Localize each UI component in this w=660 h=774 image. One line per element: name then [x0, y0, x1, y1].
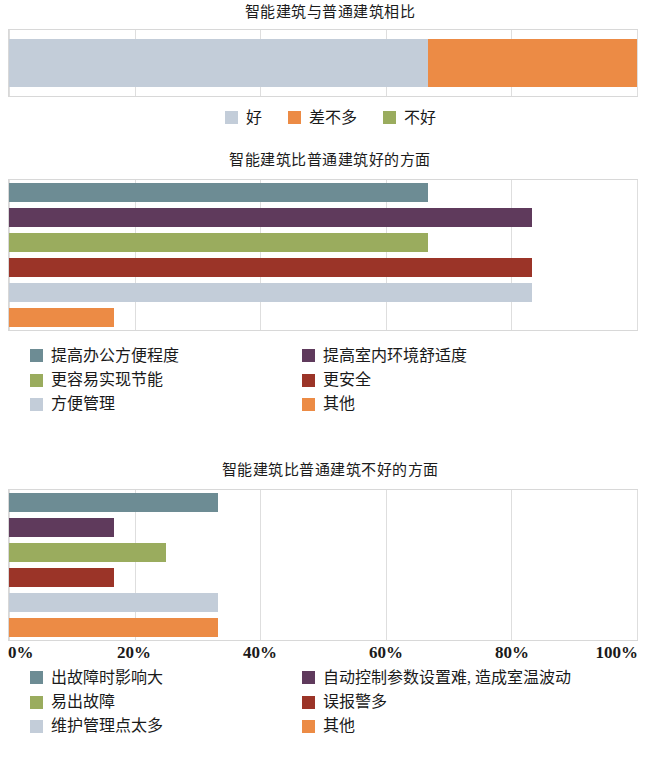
legend-label: 自动控制参数设置难, 造成室温波动 — [323, 669, 571, 687]
legend-swatch-icon — [30, 398, 43, 411]
legend-swatch-icon — [30, 696, 43, 709]
bar-row — [9, 565, 637, 590]
bar-row — [9, 230, 637, 255]
x-axis-tick-20%: 20% — [117, 643, 151, 663]
chart-3-title: 智能建筑比普通建筑不好的方面 — [0, 462, 660, 479]
bar — [9, 208, 532, 227]
chart-2-plot — [8, 179, 638, 331]
bar — [9, 493, 218, 512]
x-axis-tick-0%: 0% — [8, 643, 34, 663]
x-axis-tick-100%: 100% — [596, 643, 639, 663]
bar-row — [9, 515, 637, 540]
legend-item[interactable]: 不好 — [383, 109, 436, 127]
bar-row — [9, 280, 637, 305]
chart-2-title: 智能建筑比普通建筑好的方面 — [0, 152, 660, 169]
chart-2-bars — [9, 180, 637, 330]
bar-row — [9, 490, 637, 515]
legend-label: 出故障时影响大 — [51, 669, 163, 687]
legend-label: 更安全 — [323, 371, 371, 389]
chart-1-legend: 好差不多不好 — [0, 109, 660, 127]
legend-label: 方便管理 — [51, 395, 115, 413]
legend-label: 提高室内环境舒适度 — [323, 347, 467, 365]
legend-swatch-icon — [302, 696, 315, 709]
chart-1: 智能建筑与普通建筑相比 好差不多不好 — [0, 0, 660, 127]
chart-1-bars — [9, 30, 637, 96]
bar — [9, 593, 218, 612]
legend-swatch-icon — [30, 349, 43, 362]
legend-swatch-icon — [225, 111, 238, 124]
gridline-100% — [637, 490, 638, 640]
legend-item[interactable]: 提高室内环境舒适度 — [302, 347, 660, 365]
bar-row — [9, 205, 637, 230]
legend-item[interactable]: 易出故障 — [30, 693, 302, 711]
bar — [9, 283, 532, 302]
bar — [9, 568, 114, 587]
legend-item[interactable]: 更容易实现节能 — [30, 371, 302, 389]
legend-label: 不好 — [404, 109, 436, 127]
legend-item[interactable]: 出故障时影响大 — [30, 669, 302, 687]
bar — [9, 543, 166, 562]
legend-item[interactable]: 误报警多 — [302, 693, 660, 711]
stacked-segment — [428, 39, 637, 87]
legend-swatch-icon — [302, 720, 315, 733]
legend-item[interactable]: 更安全 — [302, 371, 660, 389]
stacked-segment — [9, 39, 428, 87]
legend-swatch-icon — [302, 374, 315, 387]
bar-row — [9, 590, 637, 615]
legend-label: 更容易实现节能 — [51, 371, 163, 389]
chart-3: 智能建筑比普通建筑不好的方面 0%20%40%60%80%100% 出故障时影响… — [0, 462, 660, 736]
legend-item[interactable]: 好 — [225, 109, 262, 127]
legend-item[interactable]: 自动控制参数设置难, 造成室温波动 — [302, 669, 660, 687]
legend-label: 维护管理点太多 — [51, 717, 163, 735]
bar-row — [9, 255, 637, 280]
bar-row — [9, 615, 637, 640]
bar — [9, 518, 114, 537]
bar-row — [9, 180, 637, 205]
legend-item[interactable]: 其他 — [302, 395, 660, 413]
bar-row — [9, 305, 637, 330]
chart-3-legend: 出故障时影响大自动控制参数设置难, 造成室温波动易出故障误报警多维护管理点太多其… — [0, 669, 660, 736]
legend-label: 误报警多 — [323, 693, 387, 711]
legend-item[interactable]: 维护管理点太多 — [30, 717, 302, 735]
legend-label: 易出故障 — [51, 693, 115, 711]
bar — [9, 233, 428, 252]
legend-item[interactable]: 差不多 — [288, 109, 357, 127]
gridline-100% — [637, 30, 638, 96]
chart-1-stacked-row — [9, 39, 637, 87]
x-axis-tick-80%: 80% — [495, 643, 529, 663]
legend-item[interactable]: 提高办公方便程度 — [30, 347, 302, 365]
x-axis-tick-40%: 40% — [243, 643, 277, 663]
bar-row — [9, 540, 637, 565]
legend-label: 差不多 — [309, 109, 357, 127]
legend-swatch-icon — [30, 720, 43, 733]
chart-2-legend: 提高办公方便程度提高室内环境舒适度更容易实现节能更安全方便管理其他 — [0, 347, 660, 414]
bar — [9, 258, 532, 277]
legend-item[interactable]: 方便管理 — [30, 395, 302, 413]
chart-1-plot — [8, 29, 638, 97]
legend-label: 好 — [246, 109, 262, 127]
chart-2: 智能建筑比普通建筑好的方面 提高办公方便程度提高室内环境舒适度更容易实现节能更安… — [0, 152, 660, 414]
legend-swatch-icon — [302, 671, 315, 684]
bar — [9, 618, 218, 637]
bar — [9, 308, 114, 327]
x-axis: 0%20%40%60%80%100% — [8, 641, 638, 665]
legend-swatch-icon — [30, 671, 43, 684]
bar — [9, 183, 428, 202]
legend-label: 提高办公方便程度 — [51, 347, 179, 365]
legend-swatch-icon — [383, 111, 396, 124]
gridline-100% — [637, 180, 638, 330]
chart-3-bars — [9, 490, 637, 640]
legend-label: 其他 — [323, 717, 355, 735]
x-axis-tick-60%: 60% — [369, 643, 403, 663]
legend-swatch-icon — [30, 374, 43, 387]
legend-swatch-icon — [302, 398, 315, 411]
legend-swatch-icon — [288, 111, 301, 124]
legend-swatch-icon — [302, 349, 315, 362]
legend-label: 其他 — [323, 395, 355, 413]
legend-item[interactable]: 其他 — [302, 717, 660, 735]
chart-1-title: 智能建筑与普通建筑相比 — [0, 4, 660, 21]
chart-3-plot — [8, 489, 638, 641]
chart-page: 智能建筑与普通建筑相比 好差不多不好 智能建筑比普通建筑好的方面 提高办公方便程… — [0, 0, 660, 774]
